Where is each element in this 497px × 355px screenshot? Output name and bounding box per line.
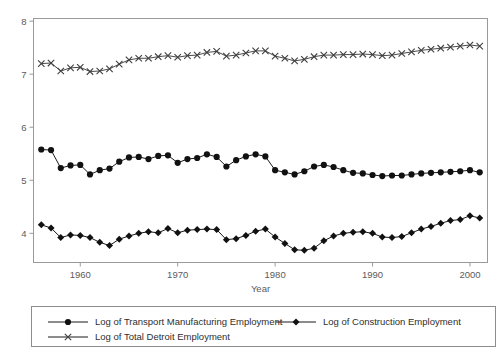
data-point — [67, 231, 74, 238]
data-point — [97, 167, 103, 173]
y-tick-label: 8 — [21, 16, 26, 27]
data-point — [369, 230, 376, 237]
data-point — [58, 165, 64, 171]
legend-label: Log of Total Detroit Employment — [95, 331, 230, 342]
data-point — [184, 227, 191, 234]
y-tick-label: 4 — [21, 228, 26, 239]
data-point — [291, 171, 297, 177]
data-point — [291, 246, 298, 253]
data-point — [106, 242, 113, 249]
data-point — [135, 230, 142, 237]
data-point — [282, 169, 288, 175]
series-0 — [38, 146, 483, 179]
data-point — [48, 147, 54, 153]
data-point — [330, 164, 336, 170]
data-point — [145, 228, 152, 235]
data-point — [428, 170, 434, 176]
data-point — [145, 156, 151, 162]
y-tick-label: 5 — [21, 175, 26, 186]
series-1 — [38, 212, 483, 253]
data-point — [399, 172, 405, 178]
data-point — [175, 160, 181, 166]
chart-figure: 4567819601970198019902000Year Log of Tra… — [0, 0, 497, 355]
data-point — [126, 154, 132, 160]
data-point — [233, 157, 239, 163]
data-point — [301, 168, 307, 174]
plot-frame — [34, 19, 488, 263]
data-point — [398, 233, 405, 240]
data-point — [106, 166, 112, 172]
data-point — [311, 163, 317, 169]
data-point — [447, 169, 453, 175]
x-tick-label: 1960 — [70, 269, 91, 280]
x-tick-label: 1990 — [362, 269, 383, 280]
data-point — [194, 155, 200, 161]
x-tick-label: 2000 — [459, 269, 480, 280]
data-point — [389, 234, 396, 241]
data-point — [272, 167, 278, 173]
data-point — [184, 156, 190, 162]
data-point — [203, 226, 210, 233]
x-tick-label: 1970 — [167, 269, 188, 280]
data-point — [243, 153, 249, 159]
data-point — [116, 159, 122, 165]
data-point — [281, 240, 288, 247]
data-point — [253, 151, 259, 157]
x-axis-title: Year — [251, 283, 270, 294]
data-point — [476, 214, 483, 221]
data-point — [174, 229, 181, 236]
data-point — [477, 169, 483, 175]
data-point — [214, 154, 220, 160]
data-point — [340, 167, 346, 173]
data-point — [38, 221, 45, 228]
chart-series — [38, 42, 483, 254]
data-point — [164, 225, 171, 232]
data-point — [96, 239, 103, 246]
chart-legend[interactable]: Log of Transport Manufacturing Employmen… — [32, 307, 496, 347]
y-tick-label: 7 — [21, 69, 26, 80]
data-point — [360, 170, 366, 176]
legend-sample-marker — [65, 319, 71, 325]
data-point — [350, 170, 356, 176]
data-point — [38, 146, 44, 152]
data-point — [67, 162, 73, 168]
data-point — [340, 230, 347, 237]
data-point — [467, 167, 473, 173]
data-point — [136, 154, 142, 160]
data-point — [301, 247, 308, 254]
legend-label: Log of Transport Manufacturing Employmen… — [95, 316, 283, 327]
employment-line-chart: 4567819601970198019902000Year Log of Tra… — [0, 0, 497, 355]
data-point — [457, 168, 463, 174]
data-point — [87, 234, 94, 241]
data-point — [369, 172, 375, 178]
data-point — [155, 229, 162, 236]
data-point — [252, 228, 259, 235]
data-point — [350, 229, 357, 236]
data-point — [262, 153, 268, 159]
data-point — [58, 68, 64, 74]
data-point — [427, 223, 434, 230]
data-point — [77, 162, 83, 168]
data-point — [233, 235, 240, 242]
data-point — [204, 151, 210, 157]
x-tick-label: 1980 — [265, 269, 286, 280]
chart-axis-labels: 4567819601970198019902000Year — [21, 16, 480, 294]
data-point — [165, 152, 171, 158]
data-point — [437, 220, 444, 227]
data-point — [418, 170, 424, 176]
data-point — [155, 153, 161, 159]
data-point — [125, 232, 132, 239]
series-path — [41, 150, 479, 177]
data-point — [116, 61, 122, 67]
data-point — [408, 171, 414, 177]
data-point — [77, 232, 84, 239]
data-point — [379, 234, 386, 241]
data-point — [408, 229, 415, 236]
data-point — [418, 226, 425, 233]
series-2 — [38, 42, 483, 75]
data-point — [330, 232, 337, 239]
data-point — [457, 216, 464, 223]
legend-label: Log of Construction Employment — [323, 316, 461, 327]
data-point — [194, 226, 201, 233]
data-point — [389, 172, 395, 178]
